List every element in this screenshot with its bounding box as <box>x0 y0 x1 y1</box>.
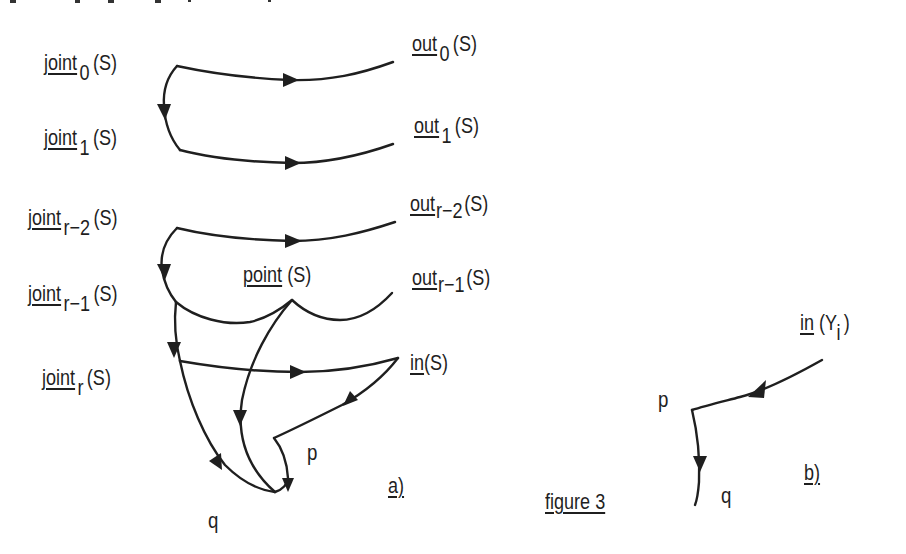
label-argument: (S) <box>464 191 488 216</box>
label-subscript: r <box>78 375 84 400</box>
edge-point-outr1 <box>292 293 392 320</box>
label-name: joint <box>28 205 61 230</box>
label-subscript: r−1 <box>64 291 91 316</box>
label-p-b: p <box>658 387 668 413</box>
label-argument: (S) <box>466 265 490 290</box>
edge-jointr1-point <box>176 300 292 323</box>
label-argument: (S) <box>424 350 448 375</box>
label-subscript: r−1 <box>438 272 465 297</box>
label-subscript: r−2 <box>436 198 463 223</box>
label-name: out <box>414 113 439 138</box>
panel-a-label: a) <box>388 475 404 497</box>
label-out-r-minus-2: outr−2(S) <box>410 193 488 215</box>
label-q-a: q <box>208 508 218 534</box>
arrow-down-icon <box>209 453 222 470</box>
edge-jointr-in <box>180 358 398 372</box>
label-argument: (S) <box>87 365 111 390</box>
label-name: a) <box>388 473 404 498</box>
label-out-1: out1(S) <box>414 115 479 137</box>
label-name: in <box>410 350 424 375</box>
label-joint-r-minus-1: jointr−1(S) <box>28 283 117 305</box>
label-name: out <box>412 265 437 290</box>
label-name: out <box>410 191 435 216</box>
scan-artifacts <box>10 0 271 3</box>
label-argument: (S) <box>93 125 117 150</box>
arrow-left-icon <box>343 391 358 406</box>
arrow-right-icon <box>283 73 299 87</box>
edge-in-yi-p <box>692 360 822 410</box>
label-name: in <box>800 310 814 335</box>
label-out-r-minus-1: outr−1(S) <box>412 267 490 289</box>
label-name: joint <box>44 50 77 75</box>
arrow-down-icon <box>233 410 247 426</box>
arrow-down-icon <box>157 264 171 280</box>
label-q-b: q <box>721 483 731 509</box>
label-p-a: p <box>307 440 317 466</box>
label-argument: (S) <box>453 31 477 56</box>
arrow-down-icon <box>157 104 171 120</box>
label-in-s: in(S) <box>410 352 448 374</box>
label-name: joint <box>42 365 75 390</box>
label-out-0: out0(S) <box>412 33 477 55</box>
label-argument: ) <box>844 310 850 335</box>
panel-b-label: b) <box>804 462 820 484</box>
label-subscript: 1 <box>442 123 452 148</box>
label-argument: (S) <box>93 205 117 230</box>
label-name: point <box>243 262 282 287</box>
arrow-left-icon <box>748 380 766 398</box>
label-argument: (Y <box>819 310 836 335</box>
label-name: out <box>412 31 437 56</box>
label-subscript: 0 <box>80 60 90 85</box>
label-name: b) <box>804 460 820 485</box>
caption-text: figure 3 <box>545 489 605 514</box>
label-joint-0: joint0(S) <box>44 52 117 74</box>
arrow-down-icon <box>693 456 707 472</box>
label-name: joint <box>28 281 61 306</box>
label-argument: (S) <box>287 262 311 287</box>
label-subscript: i <box>836 320 840 345</box>
label-point: point (S) <box>243 264 311 286</box>
figure-caption: figure 3 <box>545 491 605 513</box>
label-joint-r-minus-2: jointr−2(S) <box>28 207 117 229</box>
label-joint-1: joint1(S) <box>44 127 117 149</box>
label-argument: (S) <box>93 50 117 75</box>
label-joint-r: jointr(S) <box>42 367 111 389</box>
arrow-right-icon <box>285 156 301 170</box>
label-name: joint <box>44 125 77 150</box>
label-argument: (S) <box>455 113 479 138</box>
edge-point-q <box>241 300 292 492</box>
edge-jointr-q <box>180 361 275 492</box>
arrow-right-icon <box>285 234 302 248</box>
arrow-down-icon <box>282 478 294 492</box>
label-subscript: 0 <box>440 41 450 66</box>
label-argument: (S) <box>93 281 117 306</box>
label-subscript: r−2 <box>64 215 91 240</box>
label-in-yi: in (Yi) <box>800 312 850 334</box>
arrow-right-icon <box>290 365 306 379</box>
label-subscript: 1 <box>80 135 90 160</box>
